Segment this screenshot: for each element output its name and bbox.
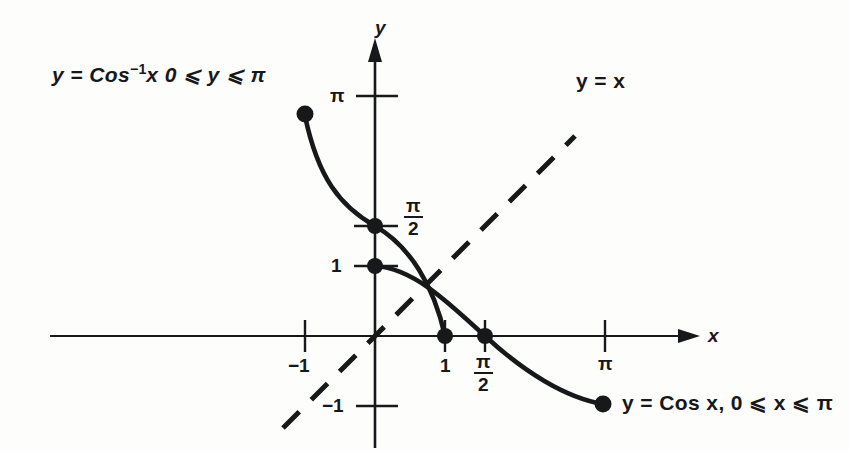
y-axis-group [368, 38, 382, 448]
y-axis-arrowhead [368, 38, 382, 62]
point-cos-zero-crossing [477, 328, 493, 344]
point-arccos-at-zero [367, 218, 383, 234]
x-tick-label-one: 1 [440, 356, 451, 375]
arccos-equation-exponent: −1 [130, 61, 146, 77]
x-tick-label-pi-over-two: π 2 [474, 352, 493, 395]
y-pi-over-two-denominator: 2 [406, 218, 421, 238]
y-pi-over-two-numerator: π [404, 196, 423, 218]
arccos-equation-suffix: x 0 ⩽ y ⩽ π [146, 63, 266, 86]
cosine-equation-annotation: y = Cos x, 0 ⩽ x ⩽ π [622, 392, 833, 413]
point-cos-at-zero [367, 258, 383, 274]
arccos-equation-prefix: y = Cos [52, 63, 130, 86]
y-tick-label-one: 1 [331, 256, 342, 275]
y-axis-label: y [375, 18, 386, 37]
y-tick-label-neg-one: −1 [322, 396, 344, 415]
x-pi-over-two-numerator: π [474, 352, 493, 374]
identity-line-annotation: y = x [576, 70, 625, 91]
x-pi-over-two-denominator: 2 [476, 374, 491, 394]
point-arccos-right-endpoint [437, 328, 453, 344]
x-axis-arrowhead [678, 329, 700, 343]
inverse-cosine-figure: y x −1 1 π 2 π π π 2 1 −1 y = Cos−1x 0 ⩽… [0, 0, 849, 451]
x-tick-label-neg-one: −1 [288, 356, 310, 375]
x-tick-label-pi: π [598, 354, 613, 373]
y-tick-label-pi: π [330, 86, 345, 105]
point-arccos-left-endpoint [297, 106, 314, 123]
arccos-equation-annotation: y = Cos−1x 0 ⩽ y ⩽ π [52, 62, 266, 85]
y-tick-label-pi-over-two: π 2 [404, 196, 423, 239]
point-cos-right-endpoint [595, 396, 612, 413]
x-axis-label: x [708, 326, 719, 345]
